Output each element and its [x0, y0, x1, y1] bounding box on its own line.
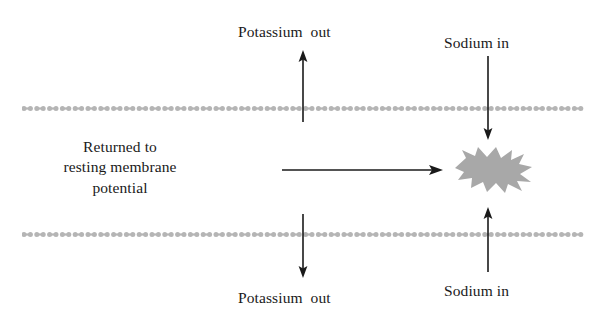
sodium-in-bottom-label: Sodium in	[444, 281, 509, 301]
potassium-out-top-label: Potassium out	[238, 22, 331, 42]
potassium-out-bottom-label: Potassium out	[238, 288, 331, 308]
returned-label-line-2: resting membrane	[18, 157, 222, 177]
returned-label-line-3: potential	[18, 178, 222, 198]
returned-to-resting-potential-label: Returned to resting membrane potential	[18, 137, 222, 198]
sodium-in-top-label: Sodium in	[444, 33, 509, 53]
action-potential-burst	[455, 147, 532, 193]
returned-label-line-1: Returned to	[18, 137, 222, 157]
membrane-potential-diagram: Potassium out Sodium in Returned to rest…	[0, 0, 615, 324]
